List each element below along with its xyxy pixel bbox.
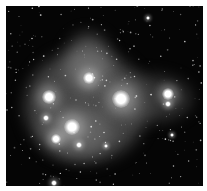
star-h [76, 142, 82, 148]
star-d [162, 88, 174, 100]
star-a [42, 90, 56, 104]
star-e [64, 119, 80, 135]
star-k [170, 133, 174, 137]
star-c [112, 90, 130, 108]
star-j [146, 16, 150, 20]
star-d2 [165, 101, 171, 107]
star-f [51, 134, 61, 144]
star-i [51, 180, 57, 186]
star-b [83, 72, 95, 84]
pleiades-photo [6, 6, 203, 186]
star-g [43, 115, 49, 121]
star-l [104, 144, 108, 148]
